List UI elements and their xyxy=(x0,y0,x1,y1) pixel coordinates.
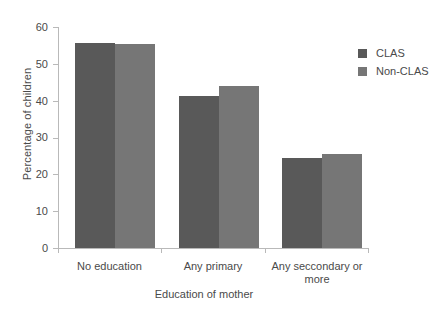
legend: CLAS Non-CLAS xyxy=(358,44,429,80)
y-tick-label-50: 50 xyxy=(8,59,48,70)
bar-nonclas-any-primary xyxy=(219,86,259,248)
bar-chart: Percentage of children 60 50 40 30 20 10… xyxy=(0,0,444,318)
legend-swatch-clas-icon xyxy=(358,49,367,58)
x-tick-mark-2 xyxy=(265,248,266,253)
x-category-label-line1: Any primary xyxy=(184,260,243,272)
y-tick-label-30: 30 xyxy=(8,132,48,143)
bar-nonclas-no-education xyxy=(115,44,155,248)
bar-clas-no-education xyxy=(75,43,115,248)
x-category-label-line2: more xyxy=(304,273,329,285)
x-tick-mark-0 xyxy=(58,248,59,253)
x-category-label-no-education: No education xyxy=(58,260,161,273)
x-axis-line xyxy=(58,248,369,249)
x-category-label-any-secondary: Any seccondary or more xyxy=(265,260,369,286)
y-tick-label-20: 20 xyxy=(8,169,48,180)
y-tick-label-10: 10 xyxy=(8,206,48,217)
legend-label-nonclas: Non-CLAS xyxy=(376,65,429,77)
plot-area xyxy=(58,27,368,248)
legend-swatch-nonclas-icon xyxy=(358,67,367,76)
y-tick-label-60: 60 xyxy=(8,22,48,33)
x-category-label-line1: Any seccondary or xyxy=(271,260,362,272)
x-axis-title-wrap: Education of mother xyxy=(0,288,444,300)
x-tick-mark-3 xyxy=(368,248,369,253)
bar-nonclas-any-secondary xyxy=(322,154,362,248)
bar-clas-any-primary xyxy=(179,96,219,248)
y-tick-label-40: 40 xyxy=(8,96,48,107)
legend-item-nonclas: Non-CLAS xyxy=(358,62,429,80)
x-category-label-any-primary: Any primary xyxy=(161,260,265,273)
x-tick-mark-1 xyxy=(161,248,162,253)
legend-label-clas: CLAS xyxy=(376,47,405,59)
x-category-label-line1: No education xyxy=(77,260,142,272)
x-axis-title: Education of mother xyxy=(155,288,253,300)
y-tick-label-0: 0 xyxy=(8,243,48,254)
bar-clas-any-secondary xyxy=(282,158,322,248)
legend-item-clas: CLAS xyxy=(358,44,429,62)
